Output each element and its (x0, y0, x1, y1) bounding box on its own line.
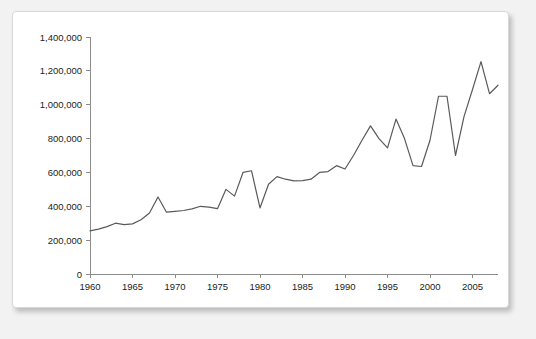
data-series-line-0 (90, 62, 498, 231)
chart-card: 0200,000400,000600,000800,0001,000,0001,… (12, 11, 509, 308)
x-tick-label: 1960 (79, 281, 100, 292)
x-tick-label: 1995 (377, 281, 398, 292)
y-tick-label: 1,200,000 (40, 65, 82, 76)
y-tick-label: 600,000 (48, 167, 82, 178)
y-tick-label: 1,400,000 (40, 32, 82, 43)
page-root: 0200,000400,000600,000800,0001,000,0001,… (0, 0, 536, 339)
x-tick-label: 2000 (419, 281, 440, 292)
x-tick-label: 1990 (334, 281, 355, 292)
y-tick-label: 200,000 (48, 235, 82, 246)
line-chart: 0200,000400,000600,000800,0001,000,0001,… (13, 12, 508, 307)
x-tick-label: 1975 (207, 281, 228, 292)
y-tick-label: 800,000 (48, 133, 82, 144)
x-tick-label: 1965 (122, 281, 143, 292)
y-tick-label: 1,000,000 (40, 99, 82, 110)
y-tick-label: 0 (77, 269, 82, 280)
x-tick-label: 1980 (249, 281, 270, 292)
x-tick-label: 2005 (462, 281, 483, 292)
x-tick-label: 1970 (164, 281, 185, 292)
x-tick-label: 1985 (292, 281, 313, 292)
y-tick-label: 400,000 (48, 201, 82, 212)
